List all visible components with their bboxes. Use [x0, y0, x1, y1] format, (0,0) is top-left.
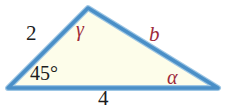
side-label-b: b: [149, 24, 160, 45]
angle-label-left: 45°: [30, 63, 58, 83]
angle-label-gamma: γ: [76, 19, 84, 39]
side-label-bottom: 4: [98, 88, 109, 108]
triangle-shape: [0, 0, 231, 108]
angle-label-alpha: α: [167, 67, 178, 87]
side-label-left: 2: [26, 23, 37, 44]
triangle-figure: 2 45° 4 γ b α: [0, 0, 231, 108]
